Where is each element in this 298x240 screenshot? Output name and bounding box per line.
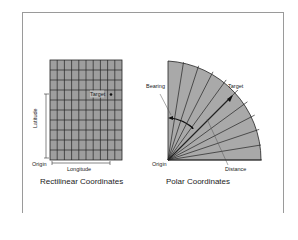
polar-quadrant (160, 61, 262, 165)
polar-target-label: Target (228, 83, 243, 89)
bearing-label: Bearing (146, 83, 165, 89)
latitude-label: Latitude (32, 108, 38, 128)
rectilinear-grid (44, 60, 122, 165)
rectilinear-caption: Rectilinear Coordinates (40, 177, 123, 186)
longitude-label: Longitude (67, 166, 91, 172)
polar-origin-label: Origin (152, 161, 167, 167)
rect-target-label: Target (90, 91, 105, 97)
distance-label: Distance (225, 166, 246, 172)
polar-caption: Polar Coordinates (166, 177, 230, 186)
rect-origin-label: Origin (32, 161, 47, 167)
